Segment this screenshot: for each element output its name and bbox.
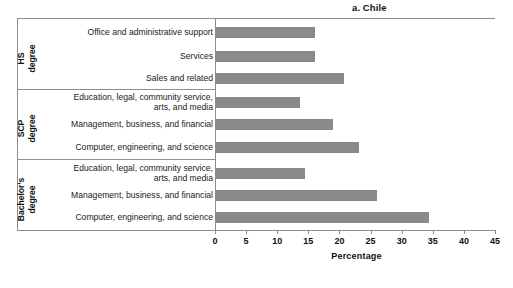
category-label: Computer, engineering, and science [35,212,213,222]
x-axis-tick [402,230,403,234]
x-axis-tick-label: 35 [418,236,448,246]
category-label: Office and administrative support [35,27,213,37]
bar [215,119,333,130]
category-label: Management, business, and financial [35,119,213,129]
bar [215,73,344,84]
x-axis-tick-label: 20 [324,236,354,246]
x-axis-tick-label: 5 [231,236,261,246]
category-label: Sales and related [35,73,213,83]
x-axis-tick [339,230,340,234]
x-axis-tick [215,230,216,234]
x-axis-tick [371,230,372,234]
bar [215,97,300,108]
x-axis-tick [433,230,434,234]
category-label: Services [35,51,213,61]
bar [215,190,377,201]
chart-figure: a. Chile HSdegree SCPdegree Bachelor'sde… [0,0,513,288]
x-axis-tick-label: 40 [449,236,479,246]
x-axis-tick [308,230,309,234]
category-label: Computer, engineering, and science [35,142,213,152]
category-label: Education, legal, community service,arts… [35,163,213,183]
category-label: Management, business, and financial [35,190,213,200]
bar [215,168,305,179]
category-label: Education, legal, community service,arts… [35,92,213,112]
group-separator-scp [17,159,215,160]
x-axis-tick-label: 25 [356,236,386,246]
group-label-hs: HSdegree [16,37,37,81]
group-label-scp: SCPdegree [16,107,37,151]
x-axis-tick [246,230,247,234]
x-axis-tick [277,230,278,234]
bar [215,142,359,153]
group-label-bachelors: Bachelor'sdegree [16,178,37,222]
bar [215,212,429,223]
bar [215,27,315,38]
x-axis-line [17,230,495,231]
bar [215,51,315,62]
x-axis-tick-label: 45 [480,236,510,246]
x-axis-tick [464,230,465,234]
x-axis-tick-label: 30 [387,236,417,246]
x-axis-tick [495,230,496,234]
panel-title: a. Chile [352,2,387,13]
x-axis-tick-label: 10 [262,236,292,246]
x-axis-tick-label: 15 [293,236,323,246]
frame-top-rule [17,18,495,19]
group-separator-hs [17,89,215,90]
plot-area: HSdegree SCPdegree Bachelor'sdegree Offi… [17,18,495,230]
x-axis-title: Percentage [0,251,513,261]
x-axis-tick-label: 0 [200,236,230,246]
